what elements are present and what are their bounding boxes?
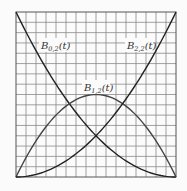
label-b22: B2,2(t) [125,38,157,53]
label-b02: B0,2(t) [39,38,71,53]
label-b12: B1,2(t) [82,80,114,95]
bernstein-chart: B0,2(t) B2,2(t) B1,2(t) [0,0,187,191]
